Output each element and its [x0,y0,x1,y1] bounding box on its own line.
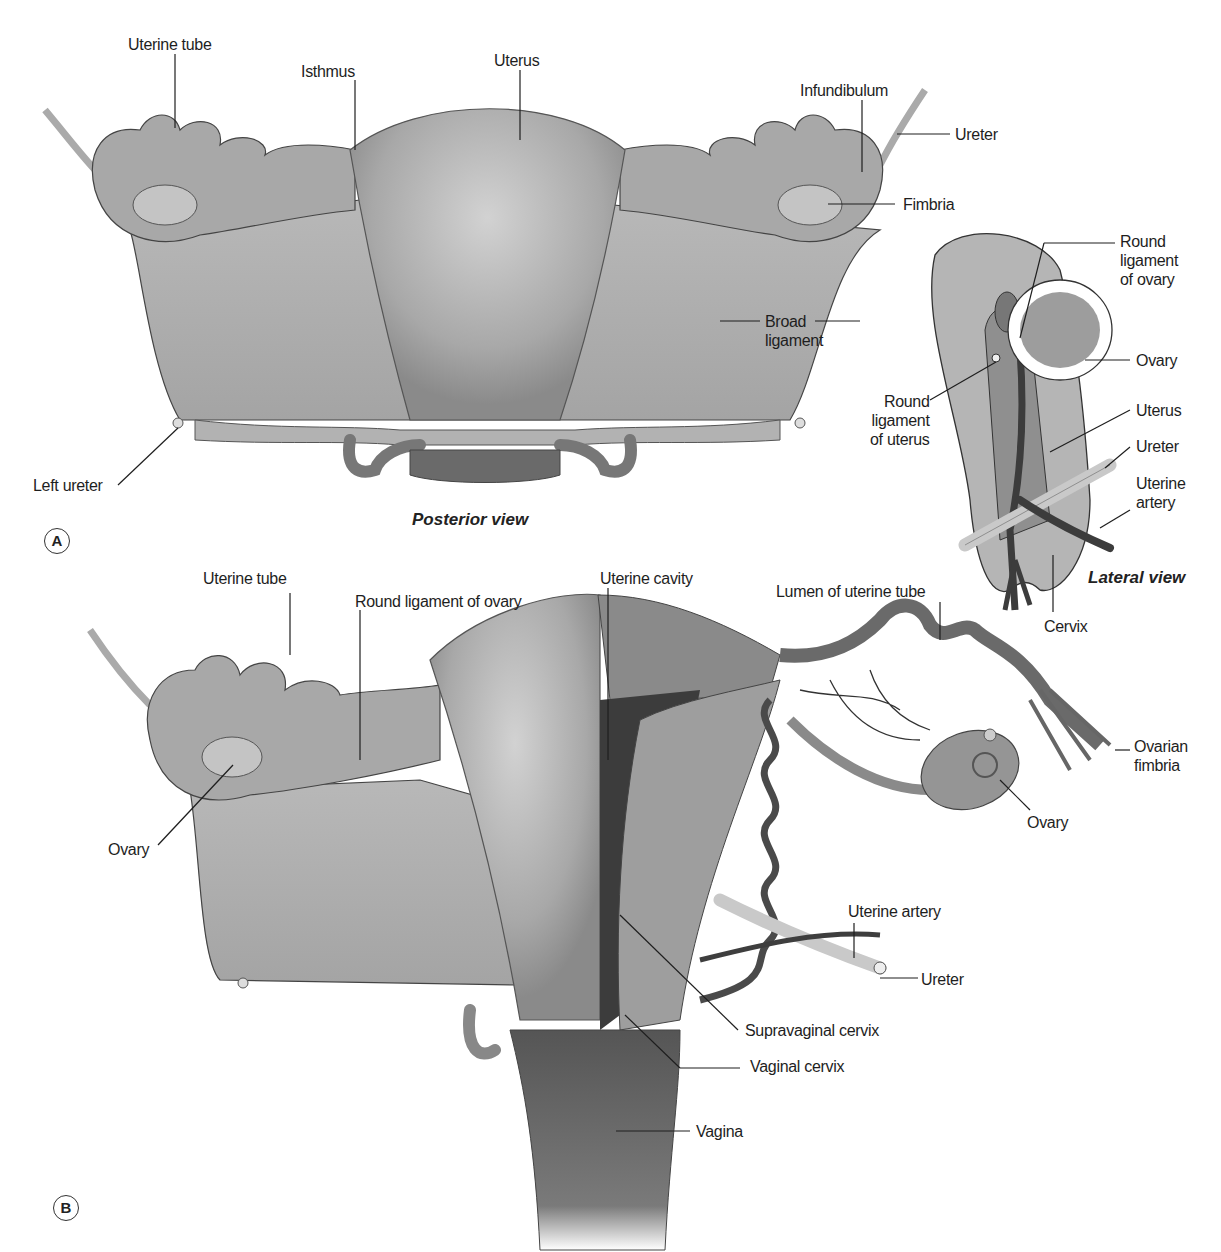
label-uterine-tube-b: Uterine tube [203,569,287,588]
label-fimbria: Fimbria [903,195,954,214]
label-round-ligament-ovary-b: Round ligament of ovary [355,592,522,611]
label-vaginal-cervix: Vaginal cervix [750,1057,844,1076]
panel-b-drawing [90,594,1110,1250]
label-ureter-a: Ureter [955,125,998,144]
label-ovary-b-left: Ovary [108,840,149,859]
label-uterus-a: Uterus [494,51,539,70]
label-ovary-lateral: Ovary [1136,351,1177,370]
label-uterine-artery-lateral: Uterine artery [1136,474,1185,512]
label-vagina: Vagina [696,1122,743,1141]
lateral-view-title: Lateral view [1088,568,1185,588]
label-uterine-artery-b: Uterine artery [848,902,941,921]
label-cervix-lateral: Cervix [1044,617,1088,636]
right-ovary-shape [778,185,842,225]
label-broad-ligament: Broad ligament [765,312,823,350]
label-uterine-tube-a: Uterine tube [128,35,212,54]
posterior-view-title: Posterior view [412,510,528,530]
label-round-ligament-ovary-lateral: Round ligament of ovary [1120,232,1178,289]
anatomy-illustration [0,0,1221,1252]
label-lumen-uterine-tube: Lumen of uterine tube [776,582,925,601]
label-ureter-b: Ureter [921,970,964,989]
label-uterus-lateral: Uterus [1136,401,1181,420]
label-uterine-cavity: Uterine cavity [600,569,693,588]
panel-b-badge: B [53,1195,79,1221]
left-ureter-tube [45,110,100,175]
label-infundibulum: Infundibulum [800,81,888,100]
panel-a-drawing [45,90,925,483]
label-left-ureter: Left ureter [33,476,103,495]
label-isthmus: Isthmus [301,62,355,81]
label-round-ligament-uterus: Round ligament of uterus [870,392,930,449]
right-ureter-tube [880,90,925,165]
label-ovary-b-right: Ovary [1027,813,1068,832]
label-ureter-lateral: Ureter [1136,437,1179,456]
label-ovarian-fimbria: Ovarian fimbria [1134,737,1188,775]
panel-a-badge: A [44,528,70,554]
lateral-view-drawing [932,234,1112,610]
label-supravaginal-cervix: Supravaginal cervix [745,1021,879,1040]
left-ovary-shape [133,185,197,225]
